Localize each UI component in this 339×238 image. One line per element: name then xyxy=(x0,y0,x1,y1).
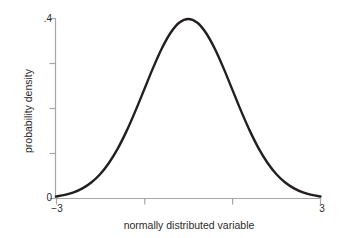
y-axis-title: probability density xyxy=(22,31,34,191)
y-tick-label-top: .4 xyxy=(36,13,52,24)
x-tick-label-right: 3 xyxy=(311,203,333,214)
x-tick-label-left: −3 xyxy=(46,203,68,214)
y-tick-label-bottom: 0 xyxy=(36,192,52,203)
x-axis-title: normally distributed variable xyxy=(56,219,322,231)
chart-figure: .4 0 −3 3 normally distributed variable … xyxy=(0,0,339,238)
